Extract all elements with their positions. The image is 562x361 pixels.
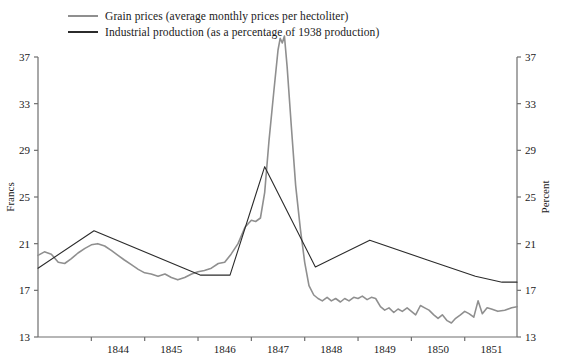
x-axis-tick-label: 1844 (107, 343, 130, 355)
y2-axis-tick-label: 29 (525, 144, 537, 156)
y-axis-tick-label: 33 (19, 98, 31, 110)
y2-axis-tick-label: 25 (525, 191, 537, 203)
y2-axis-tick-label: 37 (525, 51, 537, 63)
y-axis-tick-label: 21 (19, 238, 30, 250)
y-axis-tick-label: 17 (19, 284, 31, 296)
x-axis-tick-label: 1845 (160, 343, 183, 355)
x-axis-tick-label: 1851 (480, 343, 502, 355)
series-line-grain-prices (38, 36, 517, 323)
series-line-industrial-production (38, 167, 517, 283)
y-axis-tick-label: 25 (19, 191, 31, 203)
x-axis-tick-label: 1846 (214, 343, 237, 355)
x-axis-tick-label: 1850 (427, 343, 450, 355)
axes-group (34, 57, 521, 341)
x-axis-tick-label: 1847 (267, 343, 290, 355)
chart-figure: Grain prices (average monthly prices per… (0, 0, 562, 361)
y2-axis-tick-label: 33 (525, 98, 537, 110)
x-axis-tick-label: 1848 (320, 343, 343, 355)
y-axis-tick-label: 37 (19, 51, 31, 63)
right-axis-title: Percent (539, 181, 551, 214)
plot-area: 1317212529333713172125293337184418451846… (0, 0, 562, 361)
y2-axis-tick-label: 17 (525, 284, 537, 296)
series-group (38, 36, 517, 323)
y2-axis-tick-label: 13 (525, 331, 537, 343)
y-axis-tick-label: 13 (19, 331, 31, 343)
chart-svg: 1317212529333713172125293337184418451846… (0, 0, 562, 361)
axis-labels-group: 1317212529333713172125293337184418451846… (4, 51, 551, 355)
y-axis-tick-label: 29 (19, 144, 31, 156)
left-axis-title: Francs (4, 182, 16, 211)
x-axis-tick-label: 1849 (374, 343, 397, 355)
y2-axis-tick-label: 21 (525, 238, 536, 250)
